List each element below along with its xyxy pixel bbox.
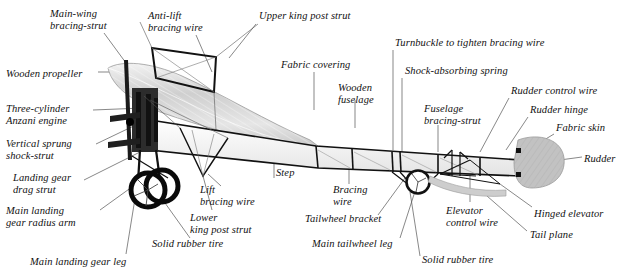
label-fabric-covering: Fabric covering bbox=[281, 59, 350, 71]
label-rudder-control-wire: Rudder control wire bbox=[511, 85, 597, 97]
label-shock-absorbing-spring: Shock-absorbing spring bbox=[405, 65, 508, 77]
label-three-cylinder-anzani-engine: Three-cylinder Anzani engine bbox=[6, 103, 69, 126]
label-fabric-skin: Fabric skin bbox=[556, 122, 605, 134]
label-elevator-control-wire: Elevator control wire bbox=[446, 205, 498, 228]
label-landing-gear-drag-strut: Landing gear drag strut bbox=[13, 172, 71, 195]
label-rudder: Rudder bbox=[584, 153, 616, 165]
label-main-landing-gear-leg: Main landing gear leg bbox=[30, 256, 126, 268]
label-tail-plane: Tail plane bbox=[530, 229, 573, 241]
label-solid-rubber-tire-right: Solid rubber tire bbox=[422, 254, 493, 266]
label-tailwheel-bracket: Tailwheel bracket bbox=[305, 213, 381, 225]
main-wheels bbox=[131, 170, 178, 207]
diagram-canvas: Main-wing bracing-strut Anti-lift bracin… bbox=[0, 0, 630, 272]
label-main-wing-bracing-strut: Main-wing bracing-strut bbox=[50, 8, 107, 31]
label-bracing-wire: Bracing wire bbox=[333, 184, 368, 207]
label-anti-lift-bracing-wire: Anti-lift bracing wire bbox=[148, 10, 203, 33]
label-wooden-fuselage: Wooden fuselage bbox=[338, 82, 374, 105]
label-turnbuckle-bracing-wire: Turnbuckle to tighten bracing wire bbox=[395, 37, 544, 49]
label-vertical-sprung-shock-strut: Vertical sprung shock-strut bbox=[6, 138, 72, 161]
label-main-tailwheel-leg: Main tailwheel leg bbox=[312, 238, 393, 250]
label-hinged-elevator: Hinged elevator bbox=[534, 208, 603, 220]
label-lift-bracing-wire: Lift bracing wire bbox=[200, 184, 255, 207]
rudder bbox=[514, 137, 564, 188]
label-main-landing-gear-radius-arm: Main landing gear radius arm bbox=[6, 205, 76, 228]
label-step: Step bbox=[276, 167, 294, 179]
label-solid-rubber-tire-left: Solid rubber tire bbox=[152, 238, 223, 250]
label-wooden-propeller: Wooden propeller bbox=[6, 68, 82, 80]
label-upper-king-post-strut: Upper king post strut bbox=[259, 10, 351, 22]
label-lower-king-post-strut: Lower king post strut bbox=[190, 212, 252, 235]
label-rudder-hinge: Rudder hinge bbox=[530, 104, 588, 116]
label-fuselage-bracing-strut: Fuselage bracing-strut bbox=[424, 103, 481, 126]
